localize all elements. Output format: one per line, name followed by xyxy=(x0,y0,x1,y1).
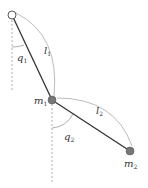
label-q2: q2 xyxy=(64,131,74,143)
rod-2 xyxy=(52,100,130,151)
pivot-icon xyxy=(8,11,16,19)
label-m2: m2 xyxy=(124,158,137,170)
mass-1 xyxy=(48,96,56,104)
q1-angle-arc xyxy=(12,45,24,47)
q2-angle-arc xyxy=(52,114,73,128)
label-l1: l1 xyxy=(44,45,51,57)
mass-2 xyxy=(126,147,134,155)
label-q1: q1 xyxy=(17,52,27,64)
label-m1: m1 xyxy=(34,95,47,107)
double-pendulum-diagram: q1 l1 m1 l2 q2 m2 xyxy=(0,0,148,188)
